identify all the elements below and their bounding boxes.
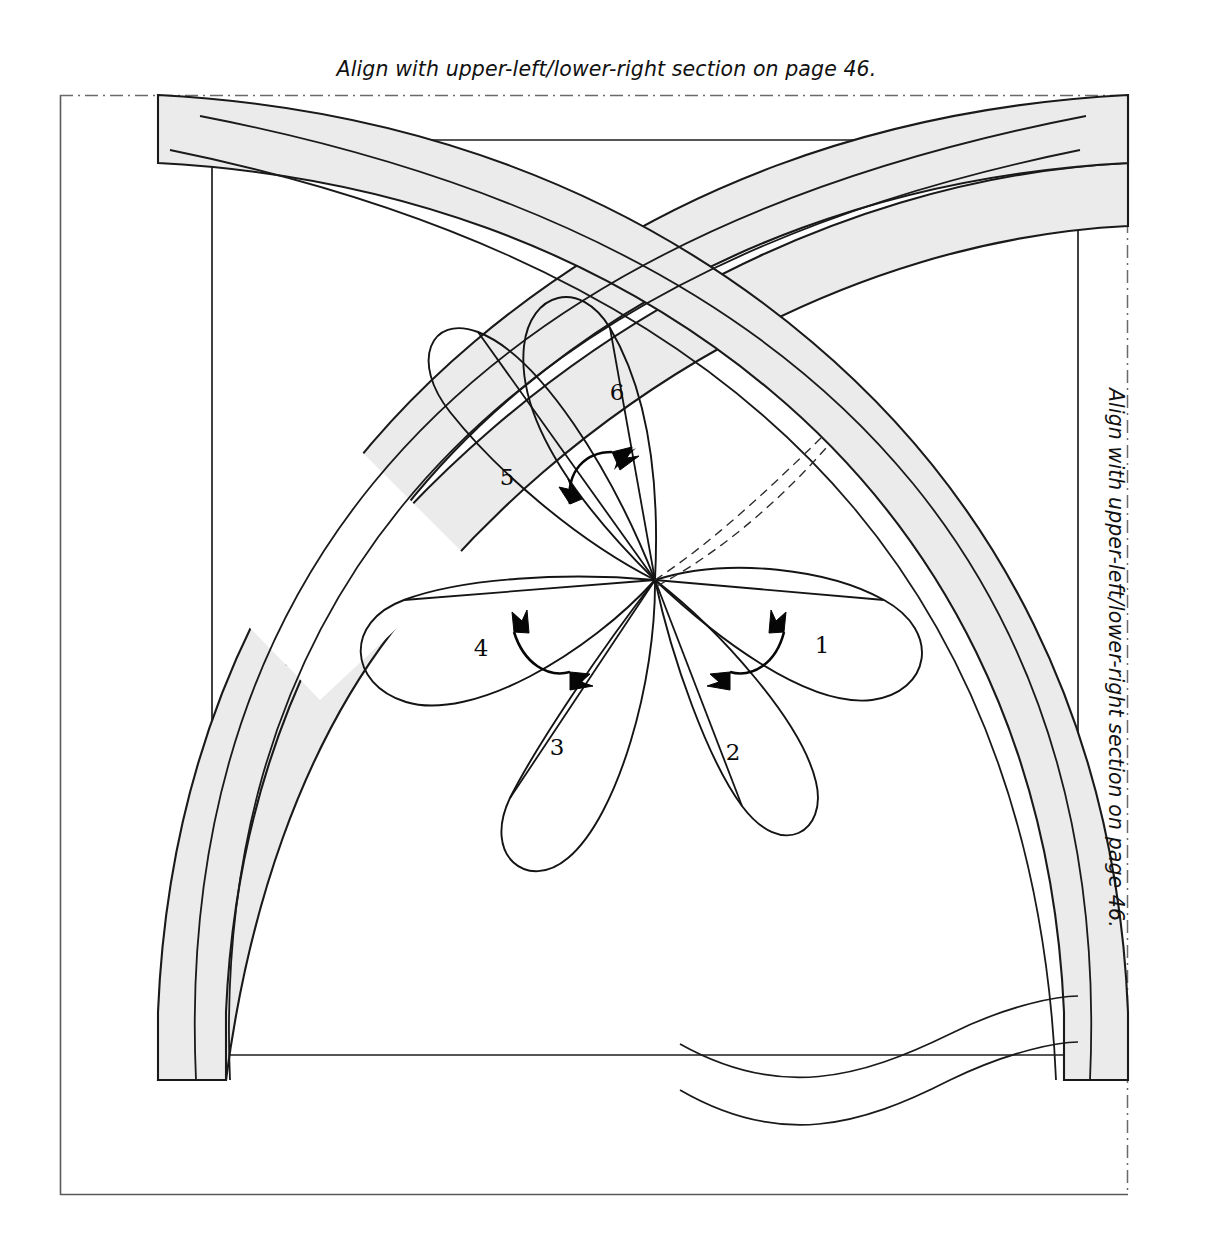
align-note-top: Align with upper-left/lower-right sectio…	[0, 57, 1213, 81]
dashed-placement-guides	[655, 437, 826, 586]
pattern-artwork	[0, 0, 1213, 1259]
wavy-bottom-lines	[680, 996, 1078, 1125]
petal-label-5: 5	[500, 466, 515, 489]
petal-label-1: 1	[815, 634, 830, 657]
petal-label-2: 2	[726, 741, 741, 764]
petal-label-6: 6	[610, 381, 625, 404]
petal-label-3: 3	[550, 736, 565, 759]
align-note-right: Align with upper-left/lower-right sectio…	[1104, 388, 1128, 1008]
petal-label-4: 4	[474, 637, 489, 660]
pattern-page: Align with upper-left/lower-right sectio…	[0, 0, 1213, 1259]
